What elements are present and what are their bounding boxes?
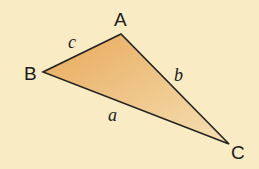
triangle-diagram: A B C c b a — [0, 0, 259, 169]
side-label-b: b — [174, 65, 183, 85]
side-label-c: c — [68, 32, 76, 52]
vertex-label-a: A — [114, 9, 127, 30]
vertex-label-b: B — [24, 63, 37, 84]
vertex-label-c: C — [231, 142, 245, 163]
side-label-a: a — [108, 105, 117, 125]
